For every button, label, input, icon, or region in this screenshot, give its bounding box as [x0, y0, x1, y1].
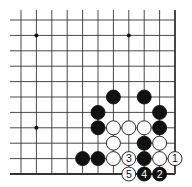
white-stone [137, 121, 151, 135]
black-stone [91, 121, 105, 135]
white-stone [106, 121, 120, 135]
move-number: 1 [172, 152, 178, 164]
white-stone: 3 [122, 152, 136, 166]
white-stone [106, 152, 120, 166]
star-point-icon [34, 126, 38, 130]
black-stone [153, 121, 167, 135]
black-stone [153, 105, 167, 119]
white-stone [153, 136, 167, 150]
white-stone: 1 [168, 152, 182, 166]
move-number: 3 [126, 152, 132, 164]
move-number: 2 [157, 168, 163, 180]
star-point-icon [127, 33, 131, 37]
go-board: 31542 [0, 0, 192, 187]
white-stone [122, 121, 136, 135]
black-stone [137, 90, 151, 104]
black-stone: 4 [137, 167, 151, 181]
black-stone [106, 90, 120, 104]
move-number: 4 [141, 168, 147, 180]
white-stone [106, 136, 120, 150]
white-stone: 5 [122, 167, 136, 181]
white-stone [153, 152, 167, 166]
move-number: 5 [126, 168, 132, 180]
black-stone: 2 [153, 167, 167, 181]
black-stone [91, 152, 105, 166]
black-stone [137, 136, 151, 150]
star-point-icon [34, 33, 38, 37]
black-stone [137, 152, 151, 166]
black-stone [91, 105, 105, 119]
black-stone [76, 152, 90, 166]
